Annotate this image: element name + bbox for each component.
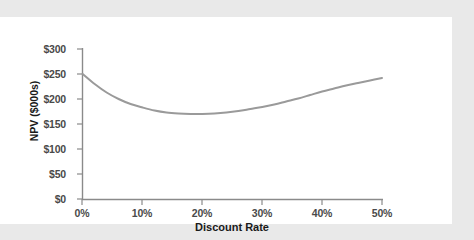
chart-paper: $300 $250 $200 $150 $100 $50 $0 0% 10% 2… — [0, 17, 452, 224]
y-tick-label-150: $150 — [14, 118, 66, 130]
x-tick-label-30: 30% — [242, 207, 282, 219]
page-background: $300 $250 $200 $150 $100 $50 $0 0% 10% 2… — [0, 0, 474, 240]
x-tick-label-0: 0% — [62, 207, 102, 219]
chart-plot-svg — [0, 17, 452, 224]
x-axis-title: Discount Rate — [82, 221, 382, 233]
y-tick-label-50: $50 — [14, 168, 66, 180]
y-tick-label-250: $250 — [14, 68, 66, 80]
x-tick-label-50: 50% — [362, 207, 402, 219]
y-tick-label-300: $300 — [14, 43, 66, 55]
x-tick-label-40: 40% — [302, 207, 342, 219]
y-tick-label-200: $200 — [14, 93, 66, 105]
y-axis-ticks — [77, 49, 82, 199]
y-axis-title: NPV ($000s) — [28, 56, 40, 166]
x-tick-label-10: 10% — [122, 207, 162, 219]
y-tick-label-0: $0 — [14, 193, 66, 205]
npv-discount-rate-chart: $300 $250 $200 $150 $100 $50 $0 0% 10% 2… — [0, 17, 452, 224]
npv-curve — [83, 74, 382, 114]
y-tick-label-100: $100 — [14, 143, 66, 155]
x-tick-label-20: 20% — [182, 207, 222, 219]
